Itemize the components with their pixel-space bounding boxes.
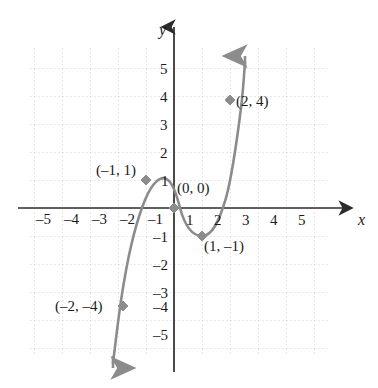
y-tick-label-2: 2 [160,146,168,161]
annotation-2-4: (2, 4) [236,94,269,109]
x-tick-label-neg3: –3 [92,212,107,227]
x-tick-label-neg1: –1 [148,212,163,227]
x-tick-label-5: 5 [298,213,306,228]
x-tick-label-neg2: –2 [120,212,135,227]
x-tick-label-3: 3 [242,213,250,228]
y-axis-label: y [159,22,166,38]
x-tick-label-neg5: –5 [36,212,51,227]
y-tick-label-1: 1 [161,174,169,189]
x-axis-label: x [358,212,365,228]
x-tick-label-1: 1 [186,213,194,228]
y-tick-label-neg1: –1 [153,230,168,245]
graph-figure: x y –5 –4 –3 –2 –1 1 2 3 4 5 5 4 3 2 1 –… [0,0,378,388]
x-tick-label-2: 2 [214,213,222,228]
y-tick-label-5: 5 [160,62,168,77]
annotation-1-neg1: (1, –1) [204,239,244,254]
y-tick-label-neg2: –2 [153,258,168,273]
x-tick-label-4: 4 [270,213,278,228]
annotation-0-0: (0, 0) [177,181,210,196]
x-tick-label-neg4: –4 [64,212,79,227]
y-tick-label-3: 3 [160,118,168,133]
y-tick-label-neg4: –4 [153,300,168,315]
annotation-neg1-1: (–1, 1) [96,163,136,178]
annotation-neg2-neg4: (–2, –4) [55,299,103,314]
y-tick-label-neg5: –5 [153,328,168,343]
y-tick-label-4: 4 [160,90,168,105]
